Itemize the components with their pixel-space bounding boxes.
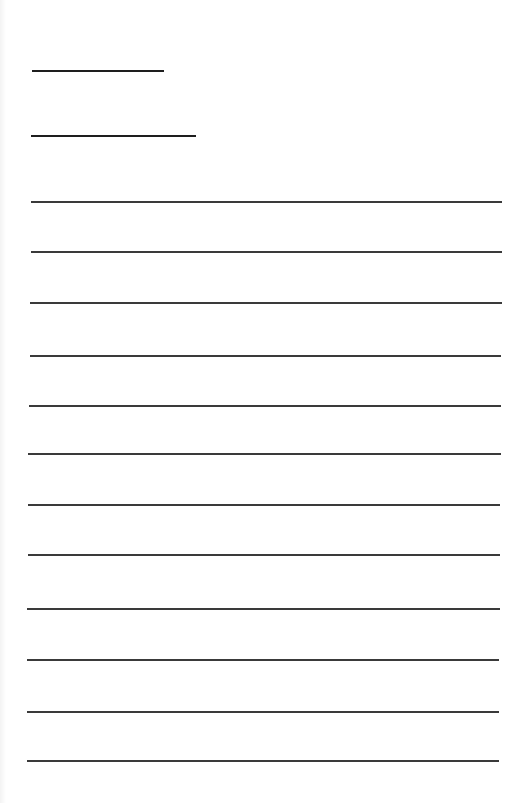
- writing-line-5[interactable]: [29, 405, 501, 407]
- writing-line-6[interactable]: [28, 453, 501, 455]
- writing-line-10[interactable]: [27, 659, 499, 661]
- writing-line-11[interactable]: [27, 711, 499, 713]
- writing-line-3[interactable]: [30, 302, 502, 304]
- header-field-line-1[interactable]: [32, 70, 164, 72]
- header-field-line-2[interactable]: [31, 135, 196, 137]
- writing-line-2[interactable]: [31, 251, 502, 253]
- writing-line-12[interactable]: [27, 760, 499, 762]
- writing-line-9[interactable]: [27, 608, 500, 610]
- lined-form-page: [0, 0, 520, 803]
- writing-line-8[interactable]: [28, 554, 500, 556]
- writing-line-4[interactable]: [30, 355, 501, 357]
- writing-line-1[interactable]: [31, 201, 502, 203]
- writing-line-7[interactable]: [28, 504, 500, 506]
- scan-edge-shadow: [0, 0, 6, 803]
